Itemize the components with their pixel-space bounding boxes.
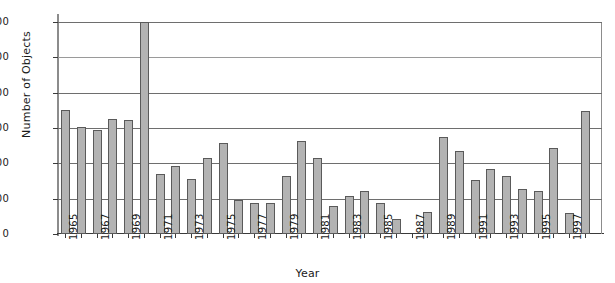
gridline [57, 22, 602, 23]
x-axis-tick-label: 1983 [353, 213, 363, 240]
y-axis-tick-mark [53, 57, 58, 58]
x-axis-tick-mark [490, 234, 491, 238]
x-axis-tick-label: 1989 [447, 213, 457, 240]
x-axis-tick-label: 1985 [384, 213, 394, 240]
x-axis-tick-label: 1979 [290, 213, 300, 240]
x-axis-tick-mark [412, 234, 413, 238]
y-axis-tick-mark [53, 163, 58, 164]
y-axis-tick-mark [53, 199, 58, 200]
x-axis-tick-mark [81, 234, 82, 238]
x-axis-tick-mark [506, 234, 507, 238]
x-axis-tick-label: 1967 [101, 213, 111, 240]
y-axis-tick-mark [53, 22, 58, 23]
x-axis-tick-mark [333, 234, 334, 238]
x-axis-tick-label: 1973 [195, 213, 205, 240]
gridline [57, 57, 602, 58]
x-axis-tick-mark [238, 234, 239, 238]
y-axis-tick-mark [53, 93, 58, 94]
y-axis-tick-mark [53, 128, 58, 129]
x-axis-tick-mark [270, 234, 271, 238]
y-axis-tick-label: 1400 [0, 17, 9, 27]
x-axis-title: Year [0, 267, 615, 280]
bar-chart-figure: Number of Objects 140012008006004002000 … [0, 0, 615, 283]
x-axis-tick-label: 1991 [479, 213, 489, 240]
x-axis-tick-mark [317, 234, 318, 238]
x-axis-tick-mark [207, 234, 208, 238]
x-axis-tick-label: 1981 [321, 213, 331, 240]
x-axis-tick-label: 1969 [132, 213, 142, 240]
x-axis-tick-mark [396, 234, 397, 238]
plot-area [57, 22, 602, 234]
x-axis-tick-mark [97, 234, 98, 238]
gridline [57, 128, 602, 129]
bar [140, 22, 149, 234]
y-axis-tick-label: 600 [0, 123, 9, 133]
y-axis-tick-label: 800 [0, 88, 9, 98]
x-axis-tick-mark [286, 234, 287, 238]
x-axis-tick-mark [160, 234, 161, 238]
x-axis-tick-mark [301, 234, 302, 238]
x-axis-tick-label: 1987 [416, 213, 426, 240]
x-axis-tick-mark [175, 234, 176, 238]
x-axis-tick-mark [380, 234, 381, 238]
gridline [57, 163, 602, 164]
x-axis-tick-mark [254, 234, 255, 238]
x-axis-tick-label: 1993 [510, 213, 520, 240]
x-axis-tick-label: 1971 [164, 213, 174, 240]
x-axis-tick-mark [349, 234, 350, 238]
x-axis-tick-mark [459, 234, 460, 238]
x-axis-tick-mark [128, 234, 129, 238]
x-axis-tick-mark [553, 234, 554, 238]
y-axis-tick-label: 400 [0, 158, 9, 168]
x-axis-tick-mark [191, 234, 192, 238]
y-axis-tick-label: 0 [0, 229, 9, 239]
x-axis-tick-mark [522, 234, 523, 238]
x-axis-tick-mark [569, 234, 570, 238]
x-axis-tick-label: 1975 [227, 213, 237, 240]
x-axis-tick-label: 1995 [542, 213, 552, 240]
y-axis-tick-label: 200 [0, 194, 9, 204]
x-axis-tick-mark [65, 234, 66, 238]
x-axis-tick-label: 1977 [258, 213, 268, 240]
x-axis-tick-label: 1997 [573, 213, 583, 240]
x-axis-tick-mark [144, 234, 145, 238]
x-axis-tick-mark [427, 234, 428, 238]
x-axis-tick-mark [223, 234, 224, 238]
gridline [57, 93, 602, 94]
x-axis-tick-mark [364, 234, 365, 238]
x-axis-tick-mark [112, 234, 113, 238]
y-axis-tick-label: 1200 [0, 52, 9, 62]
x-axis-tick-mark [475, 234, 476, 238]
x-axis-tick-mark [443, 234, 444, 238]
x-axis-tick-label: 1965 [69, 213, 79, 240]
x-axis-tick-mark [585, 234, 586, 238]
x-axis-tick-mark [538, 234, 539, 238]
y-axis-title: Number of Objects [20, 15, 33, 155]
y-axis-tick-mark [53, 234, 58, 235]
